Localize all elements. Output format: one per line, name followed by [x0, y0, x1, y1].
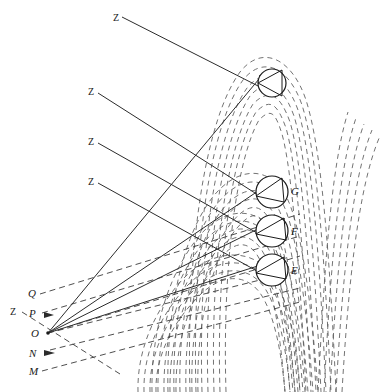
- label-zenith-2: Z: [88, 87, 94, 97]
- sphere-g: [256, 176, 288, 208]
- label-n: N: [29, 348, 36, 359]
- sphere-e: [256, 254, 288, 286]
- label-q: Q: [28, 288, 36, 299]
- label-zenith-origin: Z: [10, 307, 16, 317]
- origin-ray-f: [48, 226, 264, 333]
- label-o: O: [31, 328, 39, 339]
- origin-ray-top: [48, 73, 264, 333]
- zenith-line-1: [122, 17, 266, 90]
- origin-ray-g: [48, 187, 264, 333]
- label-m: M: [29, 366, 38, 377]
- label-p: P: [29, 308, 36, 319]
- zenith-line-2: [98, 93, 266, 200]
- label-zenith-4: Z: [88, 177, 94, 187]
- diagram-canvas: Z Z Z Z Q Z P O N M G F E: [0, 0, 391, 392]
- diagram-svg: [0, 0, 391, 392]
- label-zenith-3: Z: [88, 137, 94, 147]
- label-sphere-f: F: [291, 226, 298, 237]
- label-zenith-1: Z: [113, 13, 119, 23]
- zenith-line-4: [98, 183, 266, 276]
- label-sphere-g: G: [291, 186, 299, 197]
- origin-rays: [48, 73, 264, 333]
- reference-line-m: [42, 302, 300, 371]
- zenith-line-3: [98, 143, 266, 238]
- sphere-top: [258, 69, 286, 97]
- sphere-f: [256, 215, 288, 247]
- origin-point: [46, 331, 50, 335]
- label-sphere-e: E: [291, 265, 298, 276]
